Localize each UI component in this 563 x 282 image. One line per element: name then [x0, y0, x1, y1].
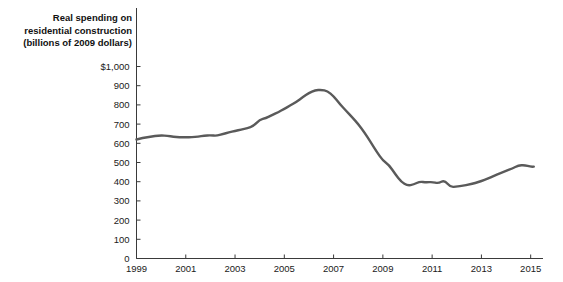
y-axis-tick-label: 600	[114, 138, 130, 149]
y-axis-tick-label: 900	[114, 80, 130, 91]
x-axis-tick-label: 2003	[224, 263, 245, 274]
y-axis-tick-label: 800	[114, 99, 130, 110]
y-axis-tick-label: 400	[114, 176, 130, 187]
y-axis-title: Real spending on residential constructio…	[14, 12, 132, 50]
y-axis-tick-label: 300	[114, 195, 130, 206]
x-axis-tick-group: 199920012003200520072009201120132015	[126, 255, 541, 274]
x-axis-tick-label: 2009	[372, 263, 393, 274]
x-axis-tick-label: 2015	[520, 263, 541, 274]
x-axis-tick-label: 2005	[274, 263, 295, 274]
x-axis-tick-label: 2001	[175, 263, 196, 274]
y-axis-tick-label: 200	[114, 215, 130, 226]
chart-figure: Real spending on residential constructio…	[0, 0, 563, 282]
y-axis-tick-label: 500	[114, 157, 130, 168]
x-axis-tick-label: 1999	[126, 263, 147, 274]
y-axis-tick-group: $1,0009008007006005004003002001000	[100, 61, 140, 264]
x-axis-tick-label: 2007	[323, 263, 344, 274]
data-series-line	[137, 90, 534, 187]
y-axis-tick-label: 700	[114, 119, 130, 130]
x-axis-tick-label: 2011	[422, 263, 442, 274]
y-axis-title-line-3: (billions of 2009 dollars)	[14, 37, 132, 50]
y-axis-tick-label: $1,000	[100, 61, 129, 72]
y-axis-tick-label: 100	[114, 234, 130, 245]
x-axis-tick-label: 2013	[471, 263, 492, 274]
y-axis-title-line-2: residential construction	[14, 25, 132, 38]
y-axis-title-line-1: Real spending on	[14, 12, 132, 25]
